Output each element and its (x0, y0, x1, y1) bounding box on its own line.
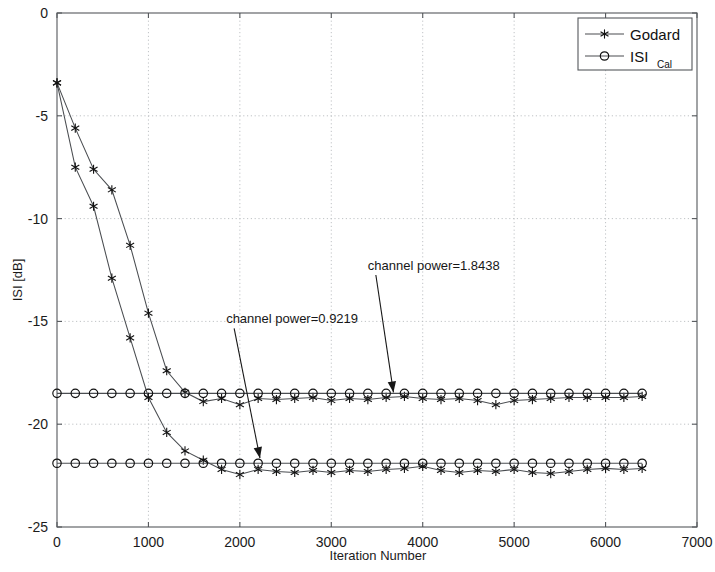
x-tick-label: 1000 (133, 534, 164, 550)
y-tick-label: -15 (28, 313, 48, 329)
x-tick-label: 2000 (224, 534, 255, 550)
y-tick-label: -10 (28, 211, 48, 227)
annotation-text: channel power=0.9219 (226, 311, 358, 326)
x-axis-label: Iteration Number (330, 548, 427, 563)
y-tick-label: -25 (28, 519, 48, 535)
legend-label-subscript: Cal (657, 59, 672, 70)
annotation-text: channel power=1.8438 (368, 258, 500, 273)
y-tick-label: 0 (40, 5, 48, 21)
y-tick-label: -20 (28, 416, 48, 432)
chart-canvas: 010002000300040005000600070000-5-10-15-2… (0, 0, 715, 572)
x-tick-label: 0 (53, 534, 61, 550)
isi-convergence-chart: 010002000300040005000600070000-5-10-15-2… (0, 0, 715, 572)
y-axis-label: ISI [dB] (10, 259, 25, 302)
x-tick-label: 7000 (681, 534, 712, 550)
y-tick-label: -5 (36, 108, 49, 124)
legend-label: Godard (630, 26, 680, 43)
x-tick-label: 6000 (590, 534, 621, 550)
legend-label: ISI (630, 48, 648, 65)
x-tick-label: 5000 (499, 534, 530, 550)
legend: GodardISICal (578, 18, 692, 70)
chart-background (0, 0, 715, 572)
